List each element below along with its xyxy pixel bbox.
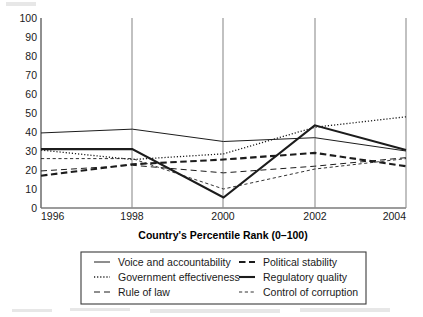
x-tick-label-2004: 2004 bbox=[383, 210, 407, 222]
legend-label-regulatory-quality: Regulatory quality bbox=[263, 271, 348, 283]
legend-label-control-of-corruption: Control of corruption bbox=[263, 286, 358, 298]
x-tick-label-1996: 1996 bbox=[41, 210, 65, 222]
x-axis-title: Country's Percentile Rank (0–100) bbox=[138, 229, 307, 241]
y-tick-label-40: 40 bbox=[25, 126, 37, 138]
x-tick-label-2000: 2000 bbox=[211, 210, 235, 222]
y-tick-label-20: 20 bbox=[25, 164, 37, 176]
y-tick-label-50: 50 bbox=[25, 107, 37, 119]
y-tick-label-80: 80 bbox=[25, 50, 37, 62]
legend-label-political-stability: Political stability bbox=[263, 256, 338, 268]
y-tick-label-60: 60 bbox=[25, 88, 37, 100]
y-tick-label-10: 10 bbox=[25, 183, 37, 195]
y-tick-label-70: 70 bbox=[25, 69, 37, 81]
y-tick-label-0: 0 bbox=[31, 202, 37, 214]
y-tick-label-30: 30 bbox=[25, 145, 37, 157]
y-tick-label-90: 90 bbox=[25, 31, 37, 43]
y-tick-label-100: 100 bbox=[19, 12, 37, 24]
x-tick-label-1998: 1998 bbox=[120, 210, 144, 222]
x-tick-label-2002: 2002 bbox=[303, 210, 327, 222]
chart-background bbox=[0, 0, 423, 317]
legend-label-voice-and-accountability: Voice and accountability bbox=[118, 256, 231, 268]
legend-label-rule-of-law: Rule of law bbox=[118, 286, 170, 298]
legend-label-government-effectiveness: Government effectiveness bbox=[118, 271, 240, 283]
percentile-rank-line-chart: 100 90 80 70 60 50 40 30 20 10 0 1996 19… bbox=[0, 0, 423, 317]
